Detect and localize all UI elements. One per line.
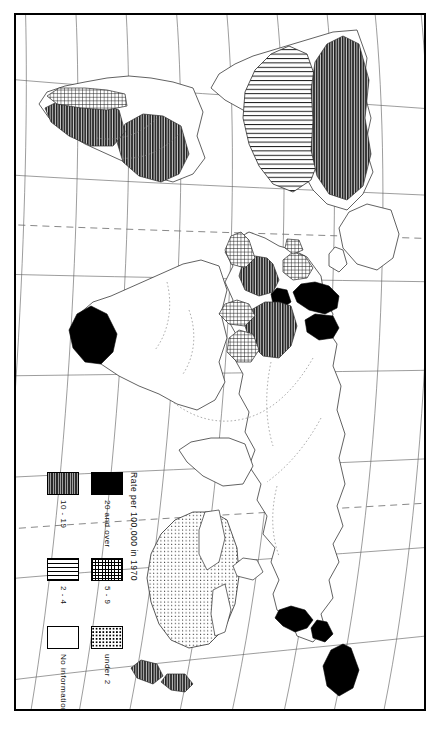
region-india <box>179 438 253 486</box>
region-iceland <box>329 247 347 272</box>
legend-label-no-information: No information <box>59 654 68 711</box>
map-frame: Rate per 100,000 in 1970 20 and over 10 … <box>14 13 426 711</box>
legend-swatch-under-2 <box>91 626 123 649</box>
map-page: Rate per 100,000 in 1970 20 and over 10 … <box>0 0 439 738</box>
legend-swatch-2-4 <box>47 558 79 581</box>
region-alaska <box>323 644 359 696</box>
legend-swatch-10-19 <box>47 472 79 495</box>
legend-swatch-no-information <box>47 626 79 649</box>
region-brazil <box>117 114 189 182</box>
legend-swatch-20-and-over <box>91 472 123 495</box>
region-japan-north <box>311 620 333 642</box>
region-british-isles <box>283 252 313 280</box>
legend-swatch-5-9 <box>91 558 123 581</box>
legend-label-5-9: 5 - 9 <box>103 586 112 605</box>
rotated-map-canvas: Rate per 100,000 in 1970 20 and over 10 … <box>0 0 439 738</box>
region-new-zealand <box>161 674 193 692</box>
legend-label-under-2: under 2 <box>103 654 112 685</box>
map-legend: Rate per 100,000 in 1970 20 and over 10 … <box>19 472 139 708</box>
region-canada <box>311 36 371 200</box>
region-greenland <box>339 204 399 270</box>
legend-label-20-and-over: 20 and over <box>103 500 112 548</box>
legend-title: Rate per 100,000 in 1970 <box>129 472 139 581</box>
legend-label-10-19: 10 - 19 <box>59 500 68 528</box>
legend-label-2-4: 2 - 4 <box>59 586 68 605</box>
